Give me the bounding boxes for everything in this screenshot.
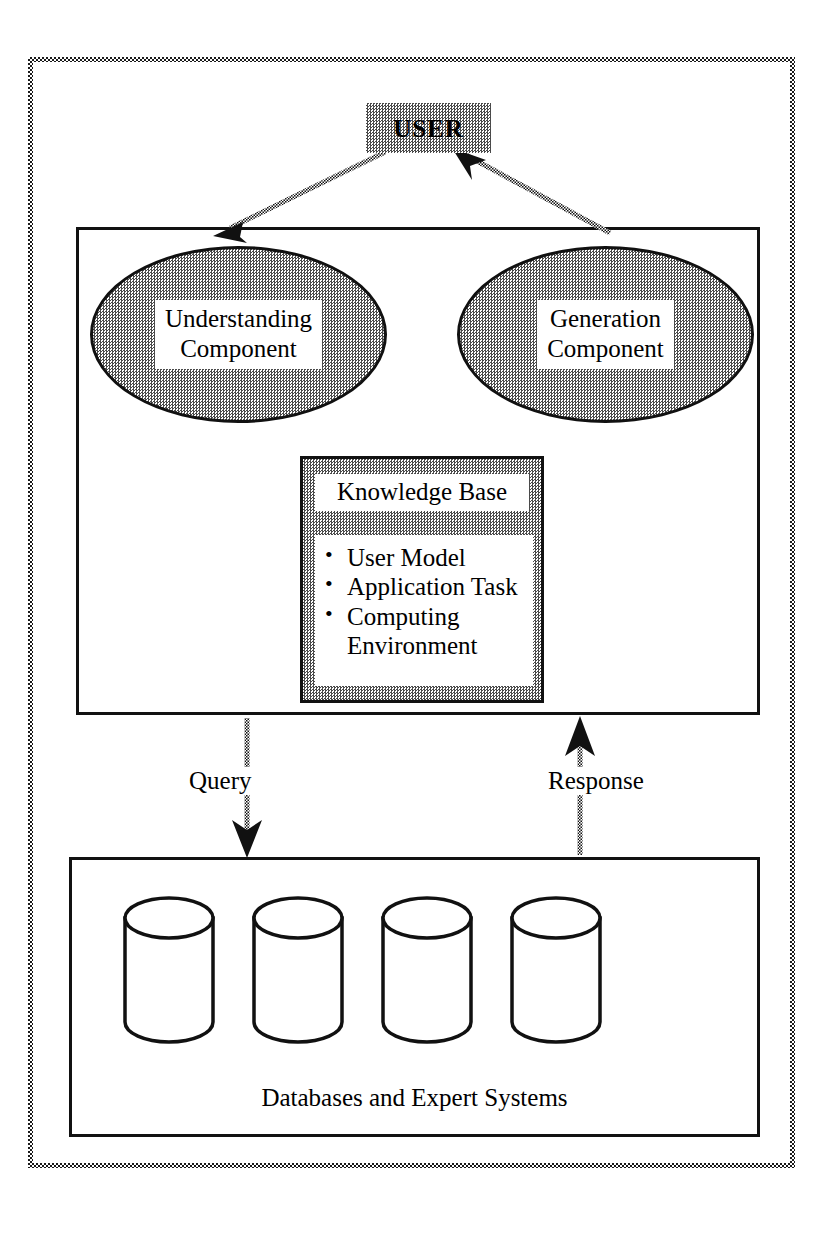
user-label: USER <box>393 116 464 141</box>
system-container: Understanding Component Generation Compo… <box>76 227 760 715</box>
understanding-line-1: Understanding <box>165 304 312 334</box>
datastore-container: Databases and Expert Systems <box>69 857 760 1137</box>
generation-component-label: Generation Component <box>537 300 674 369</box>
knowledge-base-item: Computing Environment <box>321 602 533 661</box>
response-flow-label: Response <box>545 767 647 795</box>
database-cylinder-icon[interactable] <box>121 896 217 1044</box>
knowledge-base-item: User Model <box>321 543 533 572</box>
generation-line-2: Component <box>547 334 664 364</box>
knowledge-base-item: Application Task <box>321 572 533 601</box>
understanding-component-label: Understanding Component <box>155 300 322 369</box>
database-cylinder-icon[interactable] <box>379 896 475 1044</box>
knowledge-base-title: Knowledge Base <box>315 474 529 511</box>
database-cylinder-icon[interactable] <box>508 896 604 1044</box>
understanding-line-2: Component <box>165 334 312 364</box>
query-flow-label: Query <box>186 767 254 795</box>
database-cylinder-icon[interactable] <box>250 896 346 1044</box>
user-box: USER <box>366 103 491 153</box>
knowledge-base-list: User Model Application Task Computing En… <box>315 535 533 686</box>
understanding-component[interactable]: Understanding Component <box>90 246 387 423</box>
datastore-label: Databases and Expert Systems <box>72 1084 757 1112</box>
generation-component[interactable]: Generation Component <box>457 246 754 423</box>
generation-line-1: Generation <box>547 304 664 334</box>
knowledge-base-box[interactable]: Knowledge Base User Model Application Ta… <box>300 456 544 703</box>
